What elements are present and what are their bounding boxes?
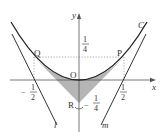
y-axis-label: y: [71, 10, 76, 20]
svg-text:4: 4: [83, 45, 87, 54]
line-m: [101, 34, 146, 125]
svg-text:1: 1: [94, 94, 98, 103]
line-label-m: m: [102, 120, 109, 130]
svg-text:2: 2: [31, 93, 35, 102]
fraction-x-half: 1 2: [120, 83, 127, 102]
svg-text:1: 1: [31, 83, 35, 92]
svg-text:−: −: [21, 88, 26, 97]
point-label-origin: O: [70, 70, 77, 80]
point-label-r: R: [68, 100, 74, 110]
x-axis-label: x: [151, 82, 156, 92]
parabola-diagram: y x C Q P O R l m 1 4 − 1 2 1 2 − 1 4: [0, 0, 163, 132]
y-axis-arrow-icon: [77, 13, 81, 19]
svg-text:2: 2: [121, 93, 125, 102]
svg-text:1: 1: [121, 83, 125, 92]
fraction-x-neg-half: − 1 2: [21, 83, 37, 102]
point-label-p: P: [117, 48, 122, 58]
svg-text:4: 4: [94, 104, 98, 113]
fraction-r-neg-quarter: − 1 4: [84, 94, 100, 113]
point-label-q: Q: [34, 48, 41, 58]
curve-label-c: C: [138, 20, 145, 30]
svg-text:−: −: [84, 101, 89, 110]
svg-text:1: 1: [83, 35, 87, 44]
fraction-y-quarter: 1 4: [82, 35, 89, 54]
